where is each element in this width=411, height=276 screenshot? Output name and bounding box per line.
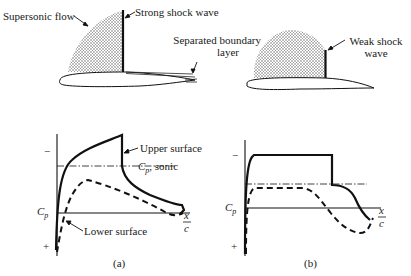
plot-a-cp-label: Cp [37, 205, 48, 222]
label-separated-line1: Separated boundary [151, 34, 261, 46]
label-separated-boundary-layer: Separated boundary layer [151, 34, 261, 58]
supersonic-region-b [254, 30, 325, 78]
plot-b-caption: (b) [304, 257, 317, 269]
arrow-strong-shock [125, 12, 135, 18]
supersonic-region-a [68, 11, 122, 72]
label-weak-shock-wave: Weak shock wave [345, 35, 407, 59]
plot-a-minus-sign: − [44, 145, 50, 157]
label-weak-shock-line2: wave [345, 47, 407, 59]
plot-b-minus-sign: − [232, 149, 238, 161]
plot-b-plus-sign: + [231, 240, 237, 252]
plot-a-lower-surface-curve [57, 180, 183, 252]
airfoil-b [247, 78, 374, 90]
plot-a-caption: (a) [113, 257, 125, 269]
plot-a-cp-sonic-label: Cp, sonic [138, 160, 178, 177]
arrow-weak-shock [328, 40, 345, 50]
plot-b-cp-label: Cp [225, 201, 236, 218]
arrow-separated-layer [191, 62, 197, 73]
plot-b-cp-sub: p [232, 207, 236, 216]
label-weak-shock-line1: Weak shock [345, 35, 407, 47]
plot-b-x-label: x [379, 204, 384, 216]
plot-a-cp-sub: p [44, 211, 48, 220]
plot-a-x-label: x [184, 209, 189, 221]
plot-a-c-label: c [184, 222, 189, 234]
plot-a-lower-surface-label: Lower surface [84, 225, 147, 237]
label-strong-shock-wave: Strong shock wave [135, 6, 219, 18]
label-supersonic-flow: Supersonic flow [3, 10, 75, 22]
plot-a-plus-sign: + [43, 240, 49, 252]
plot-b-c-label: c [379, 217, 384, 229]
arrow-supersonic-flow [74, 16, 88, 26]
plot-a-cp-sonic-text: , sonic [149, 160, 178, 172]
airfoil-a [59, 72, 195, 87]
arrow-lower-surface [66, 221, 83, 231]
label-separated-line2: layer [151, 46, 261, 58]
plot-b-axes [245, 140, 381, 256]
plot-b-upper-surface-curve [245, 155, 370, 254]
arrow-upper-surface [124, 148, 138, 153]
plot-a-upper-surface-label: Upper surface [140, 142, 202, 154]
